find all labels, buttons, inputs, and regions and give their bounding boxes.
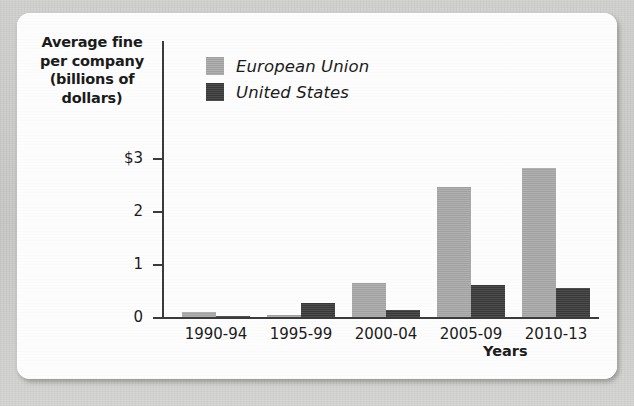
y-axis-tick: $3 [153,158,164,160]
x-axis-category-label: 2005-09 [440,325,503,343]
bar-european-union [522,168,556,317]
bar-european-union [437,187,471,317]
y-axis-title-line-1: Average fine [27,33,157,52]
y-axis-tick-label: 0 [133,308,143,326]
y-axis-title-line-4: dollars) [27,89,157,108]
plot-area: $3210 1990-941995-992000-042005-092010-1… [162,41,617,331]
bar-group [352,41,420,317]
x-axis-category-label: 2010-13 [525,325,588,343]
y-axis-title-line-3: (billions of [27,70,157,89]
x-axis-category-label: 2000-04 [355,325,418,343]
bar-group [522,41,590,317]
bar-european-union [182,312,216,317]
bar-group [437,41,505,317]
bar-united-states [556,288,590,317]
chart-card: Average fine per company (billions of do… [17,13,617,379]
bar-united-states [386,310,420,317]
y-axis-tick-label: 2 [133,202,143,220]
y-axis-tick-label: $3 [124,149,143,167]
y-axis-tick-label: 1 [133,255,143,273]
bar-european-union [352,283,386,317]
bar-series-container [164,41,617,317]
chart-card-surface: Average fine per company (billions of do… [17,13,617,379]
bar-united-states [301,303,335,317]
x-axis-line [162,317,599,319]
bar-european-union [267,315,301,317]
y-axis-tick: 0 [153,317,164,319]
bar-group [267,41,335,317]
bar-united-states [471,285,505,317]
x-axis-category-label: 1995-99 [270,325,333,343]
y-axis-tick: 2 [153,211,164,213]
bar-united-states [216,316,250,317]
y-axis-tick: 1 [153,264,164,266]
y-axis-title-line-2: per company [27,52,157,71]
x-axis-category-label: 1990-94 [185,325,248,343]
y-axis-title: Average fine per company (billions of do… [27,33,157,107]
bar-group [182,41,250,317]
x-axis-title: Years [483,343,528,359]
